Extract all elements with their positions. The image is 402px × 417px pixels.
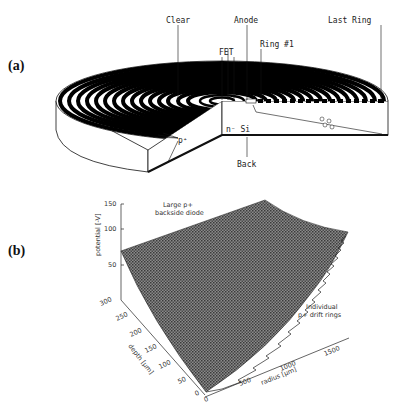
label-n-si: n⁻ Si — [226, 125, 250, 134]
label-last-ring: Last Ring — [328, 16, 372, 25]
annotation-drift-rings-line1: Individual — [306, 303, 338, 311]
label-clear: Clear — [166, 16, 190, 25]
z-axis-label: potential [-V] — [94, 214, 102, 256]
z-tick-150: 150 — [104, 200, 116, 208]
annotation-large-p-line2: backside diode — [155, 209, 204, 217]
y-tick-150: 150 — [143, 342, 158, 355]
y-tick-250: 250 — [114, 310, 129, 323]
label-anode: Anode — [234, 16, 258, 25]
figure-canvas: Clear Anode Last Ring FET Ring #1 p⁺ n⁻ … — [0, 0, 402, 417]
x-axis-label: radius [µm] — [260, 365, 298, 387]
y-tick-100: 100 — [157, 358, 172, 371]
y-tick-50: 50 — [176, 375, 187, 386]
detector-diagram: Clear Anode Last Ring FET Ring #1 p⁺ n⁻ … — [56, 16, 388, 172]
x-tick-500: 500 — [238, 376, 253, 388]
label-p-plus: p⁺ — [178, 136, 188, 145]
z-tick-50: 50 — [108, 261, 116, 269]
annotation-large-p-line1: Large p+ — [163, 201, 193, 209]
potential-surface-plot: 150 100 50 potential [-V] 300 250 200 15… — [94, 200, 349, 404]
y-tick-200: 200 — [128, 326, 143, 339]
label-back: Back — [237, 160, 256, 169]
y-tick-0: 0 — [193, 389, 200, 398]
z-tick-100: 100 — [104, 225, 116, 233]
y-tick-300: 300 — [98, 295, 113, 308]
annotation-drift-rings-line2: p+ drift rings — [298, 311, 342, 319]
label-ring1: Ring #1 — [260, 40, 294, 49]
x-tick-0: 0 — [203, 395, 210, 404]
x-tick-1500: 1500 — [323, 344, 341, 358]
label-fet: FET — [219, 48, 234, 57]
